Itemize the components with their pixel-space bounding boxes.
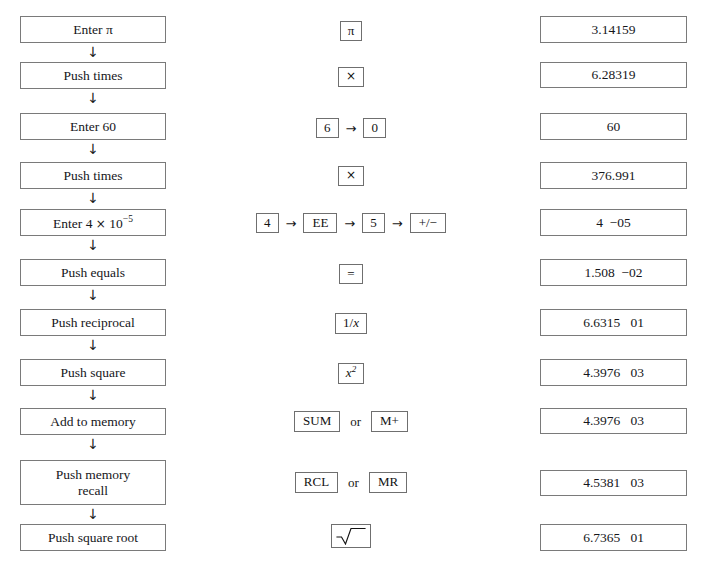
- key-sequence-row-3: 6 → 0: [176, 117, 526, 139]
- display-box-row-4: 376.991: [540, 162, 687, 189]
- display-box-row-7: 6.6315 01: [540, 309, 687, 336]
- sequence-arrow-icon: →: [343, 216, 356, 231]
- display-box-row-5: 4 −05: [540, 209, 687, 236]
- flow-arrow-10: ↓: [20, 507, 166, 521]
- flow-arrow-6: ↓: [20, 288, 166, 302]
- key-ee[interactable]: EE: [303, 213, 337, 234]
- key-sequence-row-10: RCL or MR: [176, 471, 526, 494]
- display-box-row-2: 6.28319: [540, 62, 687, 88]
- key-sequence-row-6: =: [176, 264, 526, 284]
- sequence-arrow-icon: →: [285, 216, 298, 231]
- action-box-row-6: Push equals: [20, 259, 166, 286]
- key-sequence-row-1: π: [176, 21, 526, 41]
- action-box-row-11: Push square root: [20, 524, 166, 551]
- key-pi[interactable]: π: [340, 21, 363, 42]
- key-times[interactable]: ×: [338, 67, 364, 87]
- key-square[interactable]: x2: [338, 363, 364, 384]
- alternative-label: or: [346, 414, 365, 430]
- key-sequence-row-7: 1/x: [176, 313, 526, 334]
- alternative-label: or: [344, 475, 363, 491]
- action-box-row-8: Push square: [20, 359, 166, 386]
- action-label-row-5: Enter 4 × 10−5: [53, 214, 133, 231]
- action-box-row-5: Enter 4 × 10−5: [20, 209, 166, 236]
- flow-arrow-4: ↓: [20, 191, 166, 205]
- key-times[interactable]: ×: [338, 166, 364, 186]
- key-sequence-row-4: ×: [176, 166, 526, 186]
- display-box-row-8: 4.3976 03: [540, 359, 687, 386]
- flow-arrow-5: ↓: [20, 238, 166, 252]
- display-box-row-3: 60: [540, 113, 687, 140]
- action-box-row-2: Push times: [20, 62, 166, 89]
- flow-arrow-8: ↓: [20, 388, 166, 402]
- display-box-row-10: 4.5381 03: [540, 470, 687, 496]
- key-digit-0[interactable]: 0: [363, 118, 386, 139]
- key-square-root[interactable]: [331, 524, 371, 548]
- flow-arrow-9: ↓: [20, 437, 166, 451]
- key-digit-4[interactable]: 4: [256, 213, 279, 234]
- display-box-row-9: 4.3976 03: [540, 408, 687, 434]
- key-digit-6[interactable]: 6: [316, 118, 339, 139]
- key-memory-plus[interactable]: M+: [371, 411, 408, 432]
- key-sign-change[interactable]: +/−: [410, 213, 446, 234]
- flow-arrow-2: ↓: [20, 91, 166, 105]
- display-box-row-6: 1.508 −02: [540, 259, 687, 286]
- key-sequence-row-5: 4 → EE → 5 → +/−: [176, 212, 526, 234]
- key-sequence-row-9: SUM or M+: [176, 410, 526, 433]
- action-box-row-9: Add to memory: [20, 408, 166, 435]
- display-box-row-1: 3.14159: [540, 16, 687, 43]
- flow-arrow-1: ↓: [20, 45, 166, 59]
- flow-arrow-7: ↓: [20, 338, 166, 352]
- key-sequence-row-11: [176, 523, 526, 549]
- action-box-row-10: Push memoryrecall: [20, 460, 166, 505]
- key-sequence-row-8: x2: [176, 363, 526, 384]
- flow-arrow-3: ↓: [20, 142, 166, 156]
- key-equals[interactable]: =: [339, 264, 362, 285]
- key-reciprocal[interactable]: 1/x: [335, 313, 367, 334]
- display-box-row-11: 6.7365 01: [540, 524, 687, 551]
- key-digit-5[interactable]: 5: [362, 213, 385, 234]
- action-box-row-4: Push times: [20, 162, 166, 189]
- square-root-icon: [336, 527, 366, 545]
- action-label-row-10: Push memoryrecall: [56, 467, 131, 499]
- calculator-keystroke-flowchart: Enter π ↓ π 3.14159 Push times ↓ × 6.283…: [0, 0, 702, 571]
- action-box-row-1: Enter π: [20, 16, 166, 43]
- action-box-row-7: Push reciprocal: [20, 309, 166, 336]
- key-memory-recall[interactable]: MR: [369, 472, 407, 493]
- key-sum[interactable]: SUM: [294, 411, 340, 432]
- action-box-row-3: Enter 60: [20, 113, 166, 140]
- key-recall[interactable]: RCL: [295, 472, 338, 493]
- sequence-arrow-icon: →: [345, 121, 358, 136]
- key-sequence-row-2: ×: [176, 67, 526, 87]
- sequence-arrow-icon: →: [391, 216, 404, 231]
